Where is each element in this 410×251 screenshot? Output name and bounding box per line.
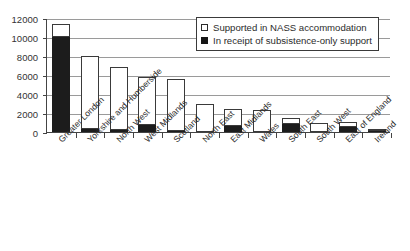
x-axis-labels: Greater LondonYorkshire and HumbersideNo… <box>46 134 390 234</box>
legend-item-supported: Supported in NASS accommodation <box>201 21 372 34</box>
y-axis-tick-label: 0 <box>33 129 38 138</box>
bar-column <box>52 18 70 132</box>
y-axis-tick-label: 6000 <box>17 72 38 81</box>
y-axis-tick-label: 2000 <box>17 110 38 119</box>
y-axis-tick-label: 8000 <box>17 53 38 62</box>
y-axis-tick-label: 10000 <box>12 34 38 43</box>
legend-item-subsistence: In receipt of subsistence-only support <box>201 34 372 47</box>
y-axis-tick-label: 4000 <box>17 91 38 100</box>
y-axis-tickmark <box>43 76 47 77</box>
y-axis-tickmark <box>43 38 47 39</box>
y-axis-labels: 120001000080006000400020000 <box>0 19 42 133</box>
y-axis-tickmark <box>43 19 47 20</box>
bar-segment-accommodation <box>52 24 70 37</box>
chart-legend: Supported in NASS accommodation In recei… <box>196 17 379 51</box>
bar-chart: 120001000080006000400020000 Greater Lond… <box>0 0 410 251</box>
x-axis-tickmark <box>391 133 392 138</box>
bar-segment-subsistence <box>52 37 70 132</box>
black-square-icon <box>201 37 208 44</box>
white-square-icon <box>201 24 208 31</box>
y-axis-tickmark <box>43 57 47 58</box>
bar-segment-accommodation <box>282 118 300 125</box>
legend-label: In receipt of subsistence-only support <box>213 36 372 46</box>
y-axis-tickmark <box>43 114 47 115</box>
legend-label: Supported in NASS accommodation <box>213 23 367 33</box>
y-axis-tickmark <box>43 95 47 96</box>
y-axis-tick-label: 12000 <box>12 15 38 24</box>
